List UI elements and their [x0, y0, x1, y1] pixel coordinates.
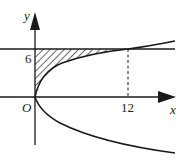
- x-tick-label-12: 12: [121, 100, 134, 115]
- x-axis-label: x: [169, 102, 176, 117]
- origin-label: O: [22, 100, 32, 115]
- parabola-lower: [35, 97, 175, 153]
- graph-canvas: y 6 O 12 x: [0, 0, 185, 164]
- y-axis-label: y: [22, 8, 30, 23]
- y-axis-arrow-icon: [30, 12, 40, 30]
- shaded-region: [35, 49, 128, 97]
- y-tick-label-6: 6: [25, 51, 32, 66]
